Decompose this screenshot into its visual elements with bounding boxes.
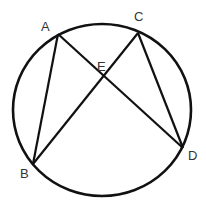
label-point-c: C xyxy=(134,9,143,24)
circle xyxy=(13,24,191,196)
segment-ab xyxy=(33,34,58,164)
segment-ad xyxy=(58,34,183,148)
label-point-a: A xyxy=(41,19,50,34)
label-point-d: D xyxy=(188,148,197,163)
circle-chord-diagram: A B C D E xyxy=(0,0,206,208)
label-point-e: E xyxy=(97,59,106,74)
label-point-b: B xyxy=(20,166,29,181)
segment-cd xyxy=(138,33,183,148)
segment-bc xyxy=(33,33,138,164)
